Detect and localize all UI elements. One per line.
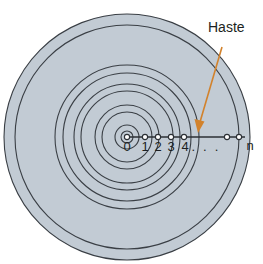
tick-dot-n: [236, 134, 241, 139]
axis-tick-label-n: n: [246, 138, 253, 153]
haste-label: Haste: [208, 19, 245, 35]
concentric-rings-diagram: 0 1 2 3 4 . . . n Haste: [0, 0, 263, 264]
tick-dot-inner-n: [224, 134, 229, 139]
axis-ellipsis-label: . . .: [191, 139, 220, 154]
axis-tick-label-2: 2: [154, 139, 161, 154]
axis-tick-label-1: 1: [141, 139, 148, 154]
axis-tick-label-0: 0: [123, 139, 130, 154]
figure-container: 0 1 2 3 4 . . . n Haste: [0, 0, 263, 264]
axis-tick-label-3: 3: [167, 139, 174, 154]
axis-tick-label-4: 4: [181, 139, 188, 154]
